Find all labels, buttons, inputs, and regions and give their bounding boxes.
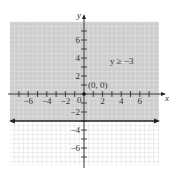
x-tick-label: −2 [61, 96, 71, 106]
y-tick-label: 6 [76, 35, 81, 45]
inequality-label: y ≥ −3 [110, 56, 134, 66]
origin-label: 0 [77, 95, 82, 105]
x-tick-label: 2 [100, 96, 105, 106]
y-tick-label: −2 [70, 107, 80, 117]
x-axis-label: x [164, 93, 169, 103]
x-tick-label: −6 [23, 96, 33, 106]
x-tick-label: 6 [138, 96, 143, 106]
y-tick-label: 2 [76, 71, 81, 81]
y-axis-arrow-icon [82, 14, 86, 19]
y-axis-label: y [76, 10, 81, 20]
y-tick-label: −4 [70, 125, 80, 135]
x-tick-label: 4 [119, 96, 124, 106]
test-point [82, 92, 86, 96]
x-tick-label: −4 [42, 96, 52, 106]
y-tick-label: −6 [70, 143, 80, 153]
coordinate-plane: x y y ≥ −3 (0, 0) 0 −6−4−2246 642−2−4−6 [0, 0, 176, 174]
y-tick-label: 4 [76, 53, 81, 63]
test-point-label: (0, 0) [88, 80, 108, 90]
